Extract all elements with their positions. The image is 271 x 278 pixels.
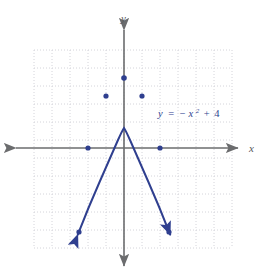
equation-plus: + [204,108,210,119]
y-axis-label: y [120,12,126,24]
equation-constant: 4 [214,108,220,119]
point-x-intercept-left [85,145,90,150]
equation-lhs: y [157,108,163,119]
point-vertex [121,75,127,81]
graph-canvas: x y y = − x 2 + 4 [0,0,271,278]
point-right-tail [166,229,171,234]
axes [16,30,238,266]
equation-exponent: 2 [196,107,200,115]
point-left-mid [103,93,108,98]
equation-sign: − [180,108,186,119]
parabola-figure: x y y = − x 2 + 4 [0,0,271,278]
equation-label: y = − x 2 + 4 [157,104,220,119]
point-x-intercept-right [157,145,162,150]
x-axis-label: x [248,142,254,154]
equation-variable: x [187,108,193,119]
point-right-mid [139,93,144,98]
point-left-tail [76,229,81,234]
equation-equals: = [168,108,174,119]
